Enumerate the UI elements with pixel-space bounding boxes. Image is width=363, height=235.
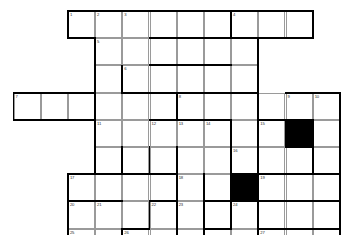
crossword-cell[interactable]: [95, 93, 122, 120]
heavy-border-vertical: [94, 119, 96, 175]
crossword-cell[interactable]: [258, 93, 285, 120]
crossword-cell[interactable]: [204, 65, 231, 92]
crossword-grid[interactable]: 1234567891011121314151617181920212223242…: [0, 0, 363, 235]
crossword-cell[interactable]: [177, 147, 204, 174]
crossword-cell[interactable]: [150, 38, 177, 65]
heavy-border-vertical: [230, 119, 232, 148]
heavy-border-vertical: [257, 37, 259, 120]
heavy-border-horizontal: [121, 92, 177, 94]
crossword-cell[interactable]: [122, 38, 149, 65]
crossword-cell[interactable]: [95, 65, 122, 92]
crossword-cell[interactable]: [313, 174, 340, 201]
heavy-border-horizontal: [230, 173, 259, 175]
crossword-cell[interactable]: 17: [68, 174, 95, 201]
crossword-cell[interactable]: [204, 38, 231, 65]
crossword-cell[interactable]: [258, 147, 285, 174]
crossword-cell[interactable]: [231, 93, 258, 120]
crossword-cell[interactable]: [122, 120, 149, 147]
crossword-cell[interactable]: [258, 201, 285, 228]
crossword-cell[interactable]: 12: [150, 120, 177, 147]
crossword-cell[interactable]: [231, 120, 258, 147]
crossword-cell[interactable]: [177, 11, 204, 38]
crossword-cell[interactable]: [150, 174, 177, 201]
heavy-border-vertical: [13, 92, 15, 121]
clue-number-25: 25: [70, 230, 74, 235]
crossword-cell[interactable]: [95, 147, 122, 174]
crossword-cell[interactable]: [204, 174, 231, 201]
heavy-border-horizontal: [285, 200, 341, 202]
crossword-cell[interactable]: [95, 174, 122, 201]
crossword-cell[interactable]: [204, 201, 231, 228]
crossword-cell[interactable]: [150, 11, 177, 38]
heavy-border-horizontal: [149, 200, 178, 202]
crossword-block-cell: [231, 174, 258, 201]
crossword-cell[interactable]: 15: [258, 120, 285, 147]
crossword-cell[interactable]: 5: [95, 38, 122, 65]
clue-number-7: 7: [16, 94, 18, 99]
crossword-cell[interactable]: [122, 174, 149, 201]
crossword-cell[interactable]: 9: [286, 93, 313, 120]
crossword-cell[interactable]: [313, 147, 340, 174]
crossword-cell[interactable]: [313, 120, 340, 147]
crossword-cell[interactable]: [204, 93, 231, 120]
heavy-border-vertical: [257, 146, 259, 202]
crossword-cell[interactable]: 14: [204, 120, 231, 147]
crossword-cell[interactable]: 1: [68, 11, 95, 38]
crossword-cell[interactable]: 16: [231, 147, 258, 174]
crossword-cell[interactable]: [95, 229, 122, 235]
crossword-cell[interactable]: 6: [122, 65, 149, 92]
clue-number-24: 24: [233, 202, 237, 207]
crossword-cell[interactable]: [258, 11, 285, 38]
crossword-cell[interactable]: 27: [258, 229, 285, 235]
crossword-cell[interactable]: [122, 147, 149, 174]
crossword-cell[interactable]: [231, 229, 258, 235]
crossword-cell[interactable]: [204, 147, 231, 174]
crossword-cell[interactable]: [204, 11, 231, 38]
crossword-cell[interactable]: [122, 93, 149, 120]
crossword-cell[interactable]: 13: [177, 120, 204, 147]
crossword-cell[interactable]: 26: [122, 229, 149, 235]
heavy-border-vertical: [257, 201, 259, 230]
crossword-cell[interactable]: [150, 93, 177, 120]
crossword-cell[interactable]: [204, 229, 231, 235]
crossword-cell[interactable]: [286, 174, 313, 201]
crossword-cell[interactable]: 20: [68, 201, 95, 228]
heavy-border-vertical: [149, 146, 151, 175]
crossword-cell[interactable]: [286, 11, 313, 38]
crossword-cell[interactable]: [150, 65, 177, 92]
crossword-cell[interactable]: [68, 93, 95, 120]
crossword-cell[interactable]: 25: [68, 229, 95, 235]
crossword-cell[interactable]: [231, 65, 258, 92]
crossword-cell[interactable]: [286, 147, 313, 174]
crossword-cell[interactable]: [313, 201, 340, 228]
crossword-cell[interactable]: [41, 93, 68, 120]
crossword-cell[interactable]: [313, 229, 340, 235]
crossword-cell[interactable]: 7: [14, 93, 41, 120]
crossword-cell[interactable]: [150, 147, 177, 174]
crossword-cell[interactable]: 24: [231, 201, 258, 228]
crossword-cell[interactable]: [286, 201, 313, 228]
crossword-cell[interactable]: 22: [150, 201, 177, 228]
crossword-cell[interactable]: 3: [122, 11, 149, 38]
crossword-cell[interactable]: 8: [177, 93, 204, 120]
crossword-cell[interactable]: 18: [177, 174, 204, 201]
crossword-cell[interactable]: 11: [95, 120, 122, 147]
clue-number-14: 14: [206, 121, 210, 126]
crossword-cell[interactable]: 2: [95, 11, 122, 38]
crossword-cell[interactable]: [150, 229, 177, 235]
heavy-border-horizontal: [67, 10, 232, 12]
crossword-cell[interactable]: 23: [177, 201, 204, 228]
crossword-cell[interactable]: [122, 201, 149, 228]
crossword-cell[interactable]: [177, 38, 204, 65]
heavy-border-horizontal: [257, 228, 340, 230]
crossword-cell[interactable]: [177, 65, 204, 92]
crossword-cell[interactable]: 21: [95, 201, 122, 228]
heavy-border-vertical: [94, 37, 96, 120]
crossword-cell[interactable]: [177, 229, 204, 235]
crossword-cell[interactable]: [286, 229, 313, 235]
crossword-cell[interactable]: 19: [258, 174, 285, 201]
crossword-cell[interactable]: 10: [313, 93, 340, 120]
crossword-cell[interactable]: 4: [231, 11, 258, 38]
clue-number-6: 6: [124, 66, 126, 71]
crossword-cell[interactable]: [231, 38, 258, 65]
